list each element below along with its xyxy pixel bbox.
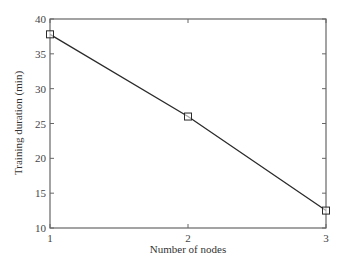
x-tick-label: 1 [47,232,53,244]
plot-area: 10152025303540123 [35,13,330,244]
y-tick-label: 15 [35,187,47,199]
y-tick-label: 20 [35,152,47,164]
x-axis-label: Number of nodes [150,243,226,255]
data-point-marker [323,207,330,214]
y-tick-label: 25 [35,118,47,130]
plot-frame [50,19,326,228]
data-point-marker [47,31,54,38]
data-point-marker [185,113,192,120]
y-tick-label: 30 [35,83,47,95]
y-tick-label: 35 [35,48,47,60]
x-tick-label: 3 [323,232,329,244]
y-tick-label: 40 [35,13,47,25]
y-axis-label: Training duration (min) [12,71,25,175]
line-chart: 10152025303540123 Number of nodes Traini… [0,0,346,264]
y-tick-label: 10 [35,222,47,234]
series-line [50,34,326,210]
